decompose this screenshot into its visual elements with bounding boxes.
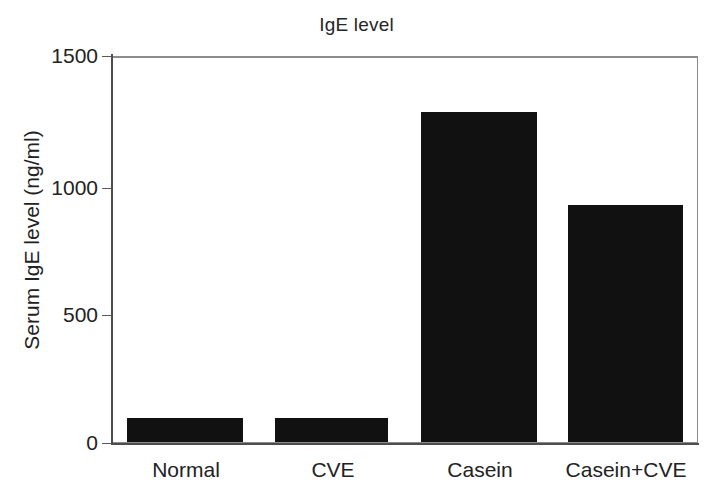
y-tick-mark-0 (102, 443, 111, 444)
y-tick-label-1500: 1500 (6, 44, 98, 68)
x-tick-label-normal: Normal (152, 458, 220, 482)
y-tick-label-500: 500 (6, 303, 98, 327)
bar-casein-cve[interactable] (568, 205, 683, 442)
x-tick-label-casein: Casein (447, 458, 512, 482)
y-axis-line (111, 54, 113, 445)
plot-area (111, 56, 698, 443)
chart-title: IgE level (0, 14, 713, 36)
bar-casein[interactable] (421, 112, 537, 442)
x-tick-label-casein-cve: Casein+CVE (566, 458, 687, 482)
y-tick-mark-1500 (102, 56, 111, 57)
y-tick-label-0: 0 (6, 431, 98, 455)
bar-cve[interactable] (275, 418, 388, 442)
y-tick-label-1000: 1000 (6, 176, 98, 200)
y-tick-mark-1000 (102, 188, 111, 189)
bar-normal[interactable] (127, 418, 243, 442)
x-axis-line (111, 443, 699, 445)
y-tick-mark-500 (102, 315, 111, 316)
x-tick-label-cve: CVE (311, 458, 354, 482)
chart-figure: IgE level Serum IgE level (ng/ml) 1500 1… (0, 0, 713, 500)
y-axis-title: Serum IgE level (ng/ml) (20, 45, 44, 435)
